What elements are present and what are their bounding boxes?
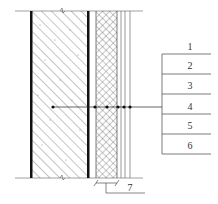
layer-label-table: 1 2 3 4 5 6 (162, 41, 211, 154)
layer-label-5: 5 (188, 120, 193, 131)
insulation-layer (96, 11, 117, 178)
layer-label-4: 4 (188, 101, 193, 112)
concrete-wall-layer (31, 8, 88, 180)
wall-right-edge (87, 11, 90, 178)
layer-label-2: 2 (188, 60, 193, 71)
dimension-label: 7 (128, 182, 133, 193)
layer-label-1: 1 (188, 41, 193, 52)
dimension-annotation (94, 180, 145, 193)
wall-left-edge (30, 11, 33, 178)
wall-section-diagram: 1 2 3 4 5 6 7 (0, 0, 218, 204)
layer-label-3: 3 (188, 80, 193, 91)
layer-label-6: 6 (188, 140, 193, 151)
finish-layers (121, 11, 130, 178)
